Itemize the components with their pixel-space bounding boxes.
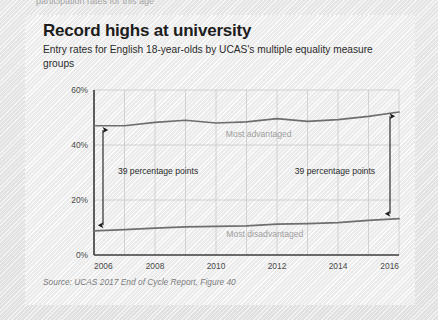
gap-annotation-label: 39 percentage points: [295, 166, 375, 176]
y-axis-tick-labels: 0%20%40%60%: [71, 85, 88, 260]
x-axis-tick-labels: 200620082010201220142016: [94, 261, 399, 271]
y-tick-label: 60%: [71, 85, 88, 95]
chart-source-note: Source: UCAS 2017 End of Cycle Report, F…: [43, 277, 236, 287]
gap-annotation-label: 39 percentage points: [118, 166, 198, 176]
x-tick-label: 2008: [146, 261, 165, 271]
y-tick-label: 40%: [71, 140, 88, 150]
y-tick-label: 20%: [71, 195, 88, 205]
x-tick-label: 2016: [380, 261, 399, 271]
y-tick-label: 0%: [76, 250, 89, 260]
x-tick-label: 2006: [94, 261, 113, 271]
x-tick-label: 2014: [329, 261, 348, 271]
line-chart-svg: 0%20%40%60% 200620082010201220142016 Mos…: [25, 15, 415, 305]
series-inline-label: Most disadvantaged: [226, 229, 303, 239]
chart-card: Record highs at university Entry rates f…: [25, 15, 415, 305]
x-tick-label: 2012: [268, 261, 287, 271]
chart-plot-area: 0%20%40%60% 200620082010201220142016 Mos…: [25, 15, 415, 305]
clipped-page-text: participation rates for this age: [36, 0, 336, 7]
x-tick-label: 2010: [207, 261, 226, 271]
series-inline-label: Most advantaged: [226, 129, 292, 139]
